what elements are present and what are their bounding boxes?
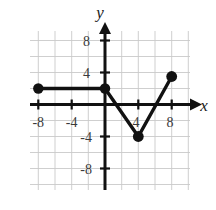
point-marker-origin-knee xyxy=(100,83,110,93)
x-tick-label-neg4: -4 xyxy=(66,115,78,130)
point-marker-right-endpoint xyxy=(166,71,177,82)
y-tick-label-neg4: -4 xyxy=(80,130,92,145)
coordinate-plane-plot: 8 4 -4 -8 -8 -4 4 8 y x xyxy=(0,0,216,210)
y-tick-label-4: 4 xyxy=(83,66,90,81)
point-marker-vertex xyxy=(133,131,144,142)
x-tick-label-4: 4 xyxy=(133,115,140,130)
y-tick-label-8: 8 xyxy=(83,34,90,49)
x-tick-label-8: 8 xyxy=(167,115,174,130)
graph-figure: 8 4 -4 -8 -8 -4 4 8 y x xyxy=(0,0,216,210)
point-marker-left-endpoint xyxy=(33,83,43,93)
y-tick-label-neg8: -8 xyxy=(80,162,92,177)
x-tick-label-neg8: -8 xyxy=(32,115,44,130)
x-axis-variable-label: x xyxy=(199,96,208,115)
y-axis-variable-label: y xyxy=(94,3,104,22)
